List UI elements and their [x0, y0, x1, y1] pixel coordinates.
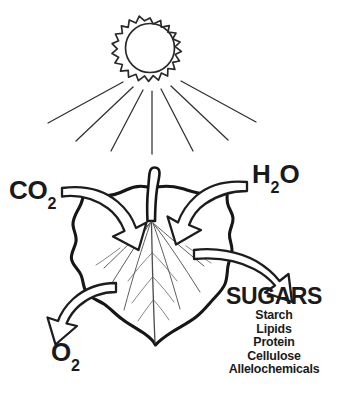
sugars-product-item: Cellulose — [213, 350, 335, 364]
label-o2: O2 — [51, 339, 80, 365]
sugars-product-list: StarchLipidsProteinCelluloseAllelochemic… — [213, 309, 335, 377]
label-h2o-tail: O — [280, 159, 300, 189]
sugars-product-item: Protein — [213, 336, 335, 350]
sugars-product-item: Allelochemicals — [213, 363, 335, 377]
label-o2-subscript: 2 — [71, 356, 80, 374]
o2-arrow — [48, 283, 117, 345]
sunlight-ray — [161, 89, 193, 151]
sunlight-ray — [76, 87, 133, 141]
sunlight-ray — [181, 81, 256, 122]
sugars-product-item: Lipids — [213, 323, 335, 337]
label-h2o-text: H — [252, 159, 271, 189]
sugars-output-block: SUGARS StarchLipidsProteinCelluloseAllel… — [213, 285, 335, 377]
photosynthesis-diagram: CO2 H2O O2 SUGARS StarchLipidsProteinCel… — [0, 0, 348, 394]
label-h2o: H2O — [252, 161, 300, 187]
label-o2-text: O — [51, 337, 71, 367]
sunlight-ray — [111, 90, 143, 151]
sun-disc — [126, 24, 175, 73]
sunlight-ray — [48, 82, 123, 123]
sun-icon — [112, 16, 181, 81]
sunlight-rays — [48, 81, 256, 154]
label-co2-text: CO — [9, 175, 48, 205]
label-h2o-subscript: 2 — [271, 178, 280, 196]
sugars-product-item: Starch — [213, 309, 335, 323]
sugars-title: SUGARS — [213, 285, 335, 308]
label-co2: CO2 — [9, 177, 57, 203]
label-co2-subscript: 2 — [48, 194, 57, 212]
sunlight-ray — [171, 86, 228, 140]
